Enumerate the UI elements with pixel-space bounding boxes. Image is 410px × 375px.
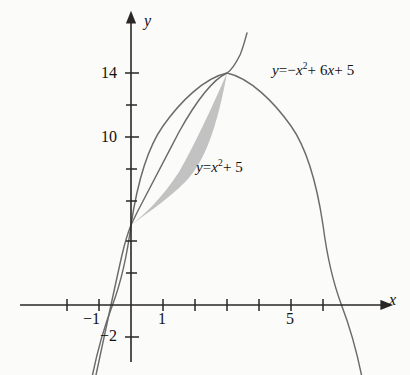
shaded-area-between-curves [131,73,227,225]
eq-up-term2: + 5 [223,159,243,175]
x-tick-label-5: 5 [286,310,294,328]
curve-downward-parabola [93,73,362,375]
y-tick-label-10: 10 [101,128,117,146]
eq-up-lhs: y [196,159,203,175]
eq-down-lhs: y [272,62,279,78]
x-axis-name: x [389,291,396,309]
x-tick-label-1: 1 [158,310,166,328]
eq-down-term2: + 6 [308,62,328,78]
eq-down-term1-base: x [296,62,303,78]
x-tick-label-negative-1: −1 [83,310,100,328]
y-axis-name: y [144,12,151,30]
eq-down-sign: − [287,62,296,78]
y-tick-label-14: 14 [101,64,117,82]
eq-down-term3: + 5 [334,62,354,78]
parabola-area-figure: y=−x2+ 6x+ 5 y=x2+ 5 14 10 −2 −1 1 5 y x [0,0,410,375]
y-axis-ticks [125,73,139,337]
plot-canvas [0,0,410,375]
equation-label-downward-parabola: y=−x2+ 6x+ 5 [272,62,354,79]
y-tick-label-negative-2: −2 [100,327,117,345]
equation-label-upward-parabola: y=x2+ 5 [196,159,243,176]
